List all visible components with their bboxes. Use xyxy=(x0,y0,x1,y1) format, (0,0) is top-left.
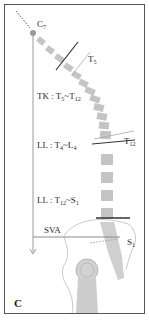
label-c7-sub: 7 xyxy=(43,24,46,30)
diagram-canvas xyxy=(0,0,149,322)
panel-letter: C xyxy=(14,298,22,309)
femur-shaft xyxy=(76,278,98,313)
sacrum-shape xyxy=(100,222,124,280)
label-ll-lower-sub2: 1 xyxy=(76,200,79,206)
label-ll-lower-prefix: LL : T xyxy=(37,195,60,205)
label-ll-upper-sub2: 4 xyxy=(73,145,76,151)
cervical-dotted-line xyxy=(16,11,30,28)
label-t5-sub: 5 xyxy=(94,59,97,65)
panel-frame xyxy=(5,5,145,314)
label-ll-upper: LL : T4~L4 xyxy=(37,141,76,151)
label-tk-mid: ~T xyxy=(64,91,74,101)
label-t12-sub: 12 xyxy=(130,141,136,147)
label-c7: C7 xyxy=(37,20,46,30)
label-s1-sub: 1 xyxy=(132,242,135,248)
label-ll-upper-mid: ~L xyxy=(63,140,73,150)
label-ll-lower: LL : T12~S1 xyxy=(37,196,79,206)
thoracic-vertebrae xyxy=(36,36,111,139)
pelvis-outline xyxy=(62,220,135,313)
label-t12: T12 xyxy=(124,137,136,147)
label-tk-prefix: TK : T xyxy=(37,91,61,101)
lumbar-vertebrae xyxy=(101,154,113,219)
label-ll-upper-prefix: LL : T xyxy=(37,140,60,150)
label-t5: T5 xyxy=(88,55,97,65)
label-ll-lower-mid: ~S xyxy=(66,195,76,205)
label-sva: SVA xyxy=(44,226,61,235)
spine-sagittal-alignment-diagram: C7 T5 TK : T5~T12 T12 LL : T4~L4 LL : T1… xyxy=(0,0,149,322)
femoral-head xyxy=(76,259,98,281)
label-s1: S1 xyxy=(127,238,135,248)
label-tk-sub2: 12 xyxy=(75,96,81,102)
label-tk: TK : T5~T12 xyxy=(37,92,81,102)
